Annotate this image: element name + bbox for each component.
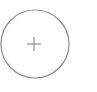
add-button[interactable] bbox=[0, 8, 70, 80]
plus-circle-icon bbox=[0, 8, 70, 80]
